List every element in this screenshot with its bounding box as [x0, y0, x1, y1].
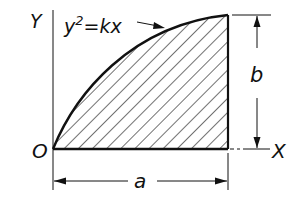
- arrow-right-icon: [153, 22, 165, 29]
- origin-label: O: [32, 139, 48, 163]
- arrow-down-icon: [254, 137, 261, 148]
- width-dimension-label: a: [134, 169, 146, 193]
- y-axis-label: Y: [30, 10, 43, 32]
- equation-leader: [137, 22, 165, 29]
- height-dimension-label: b: [250, 63, 263, 87]
- arrow-right-icon: [215, 178, 227, 185]
- equation-label: y2=kx: [63, 13, 122, 37]
- parabola-area-diagram: Y O X b a y2=kx: [0, 0, 303, 204]
- x-axis-label: X: [271, 139, 287, 163]
- arrow-up-icon: [254, 16, 261, 27]
- svg-text:y2=kx: y2=kx: [63, 13, 122, 37]
- arrow-left-icon: [54, 178, 66, 185]
